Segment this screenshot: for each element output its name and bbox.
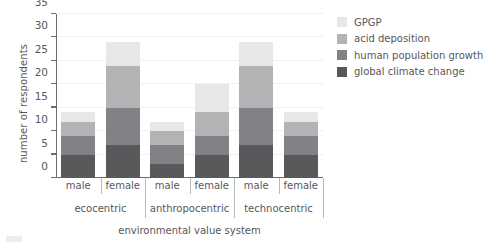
bar-segment [284, 155, 318, 178]
y-tick-label: 10 [35, 113, 48, 125]
category-label-gender: female [275, 180, 327, 191]
y-tick-label: 30 [35, 19, 48, 31]
bar-segment [239, 108, 273, 145]
legend-swatch [337, 50, 347, 60]
axis-separator-minor [279, 178, 280, 194]
axis-separator-major [234, 178, 235, 218]
legend-label: acid deposition [354, 33, 430, 44]
bar-segment [150, 131, 184, 145]
legend-label: global climate change [354, 66, 465, 77]
bar-segment [239, 145, 273, 178]
legend-label: GPGP [354, 17, 382, 28]
y-tick-label: 35 [35, 0, 48, 8]
bar-segment [61, 136, 95, 155]
y-tick-mark [51, 13, 56, 14]
bar-segment [195, 155, 229, 178]
bar-segment [61, 122, 95, 136]
y-tick-mark [51, 60, 56, 61]
legend-item: acid deposition [337, 31, 471, 48]
bar-segment [284, 136, 318, 155]
chart-legend: GPGPacid depositionhuman population grow… [337, 14, 471, 80]
y-axis-title: number of respondents [18, 34, 29, 174]
plot-area: 35302520151050 [56, 14, 323, 178]
bar-segment [195, 84, 229, 112]
bar-segment [284, 122, 318, 136]
y-tick-label: 20 [35, 66, 48, 78]
y-tick-label: 25 [35, 43, 48, 55]
category-label-group: anthropocentric [140, 203, 240, 214]
bar [195, 84, 229, 178]
axis-separator-major [323, 178, 324, 218]
y-tick-label: 15 [35, 90, 48, 102]
corner-artifact [6, 236, 22, 242]
bar-segment [106, 145, 140, 178]
y-tick-label: 5 [41, 137, 48, 149]
axis-separator-minor [190, 178, 191, 194]
bar-segment [195, 136, 229, 155]
category-label-group: ecocentric [51, 203, 151, 214]
bar-segment [61, 155, 95, 178]
axis-separator-minor [101, 178, 102, 194]
y-tick-mark [51, 130, 56, 131]
legend-item: GPGP [337, 14, 471, 31]
bar-segment [150, 164, 184, 178]
bar-segment [106, 66, 140, 108]
bar [150, 122, 184, 178]
bar [284, 112, 318, 178]
axis-separator-major [145, 178, 146, 218]
bar [61, 112, 95, 178]
bar-segment [106, 108, 140, 145]
y-tick-mark [51, 106, 56, 107]
y-tick-mark [51, 83, 56, 84]
bar-segment [150, 122, 184, 131]
category-axis: malefemalemalefemalemalefemaleecocentric… [56, 178, 323, 230]
bar-segment [239, 66, 273, 108]
bar-segment [239, 42, 273, 65]
legend-swatch [337, 17, 347, 27]
legend-swatch [337, 67, 347, 77]
bar-segment [150, 145, 184, 164]
x-axis-title: environmental value system [56, 225, 323, 236]
legend-swatch [337, 34, 347, 44]
bar [106, 42, 140, 178]
bar-segment [195, 112, 229, 135]
bar-segment [61, 112, 95, 121]
bar-segment [284, 112, 318, 121]
bar-segment [106, 42, 140, 65]
legend-item: global climate change [337, 64, 471, 81]
bar [239, 42, 273, 178]
category-label-group: technocentric [229, 203, 329, 214]
legend-item: human population growth [337, 47, 471, 64]
y-tick-mark [51, 153, 56, 154]
y-tick-label: 0 [41, 160, 48, 172]
legend-label: human population growth [354, 50, 483, 61]
y-tick-mark [51, 36, 56, 37]
